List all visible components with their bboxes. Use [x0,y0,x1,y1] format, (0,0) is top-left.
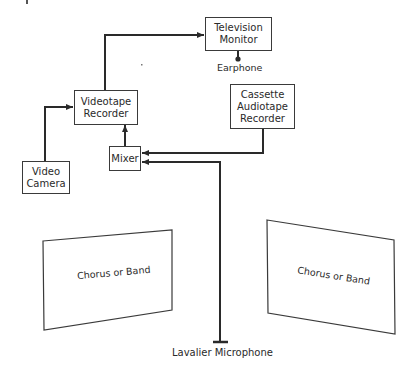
edge-vtr-to-monitor [105,35,204,90]
videotape-recorder-box: Videotape Recorder [74,90,138,125]
cassette-recorder-box: Cassette Audiotape Recorder [230,84,295,129]
lavalier-microphone-label: Lavalier Microphone [172,347,273,358]
mixer-label: Mixer [111,153,138,165]
cropped-text-fragment [26,0,28,4]
edge-camera-to-vtr [45,107,73,161]
camera-line1: Video [32,166,60,178]
vtr-line1: Videotape [81,96,132,108]
edge-cassette-to-mixer [142,128,263,153]
cassette-line3: Recorder [240,113,285,125]
cassette-line2: Audiotape [237,101,288,113]
cassette-line1: Cassette [241,89,285,101]
television-monitor-box: Television Monitor [205,17,272,51]
camera-line2: Camera [26,178,65,190]
earphone-jack-icon [235,56,240,61]
tv-line2: Monitor [219,34,257,46]
vtr-line2: Recorder [84,108,129,120]
tv-line1: Television [214,22,263,34]
mixer-box: Mixer [109,146,141,171]
video-camera-box: Video Camera [22,161,70,194]
chorus-panel-left [43,230,172,330]
earphone-label: Earphone [217,62,262,73]
